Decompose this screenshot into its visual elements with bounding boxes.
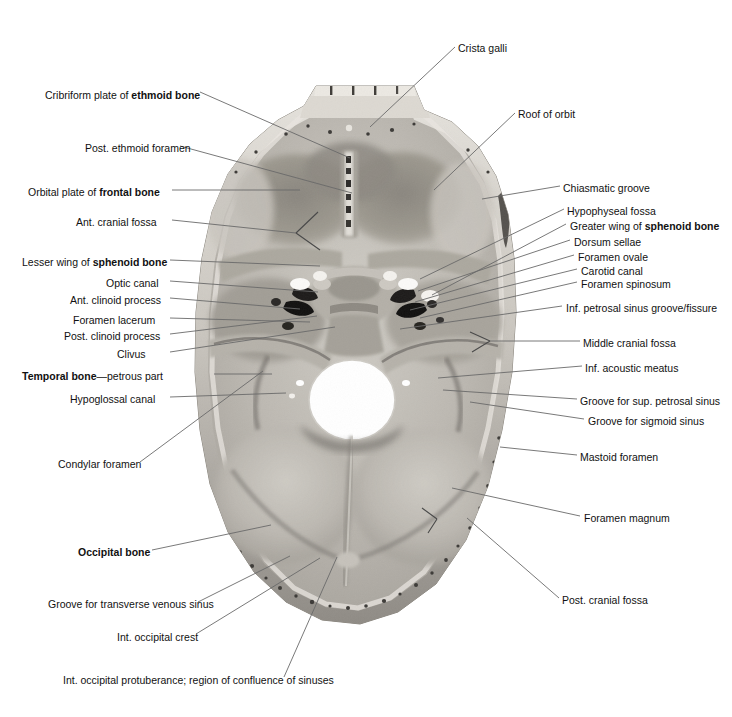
label-lesser-wing-sphenoid[interactable]: Lesser wing of sphenoid bone [22, 256, 167, 268]
label-cribriform-plate[interactable]: Cribriform plate of ethmoid bone [45, 89, 200, 101]
label-text: Lesser wing of [22, 256, 93, 268]
label-crista-galli[interactable]: Crista galli [458, 42, 507, 54]
label-greater-wing-sphenoid[interactable]: Greater wing of sphenoid bone [570, 220, 719, 232]
label-text: Hypophyseal fossa [567, 205, 656, 217]
label-middle-cranial-fossa[interactable]: Middle cranial fossa [583, 337, 676, 349]
label-text: Foramen spinosum [581, 278, 671, 290]
figure-canvas: Cribriform plate of ethmoid bonePost. et… [0, 0, 732, 717]
label-text-emphasis: sphenoid bone [93, 256, 168, 268]
label-text: Optic canal [106, 277, 159, 289]
label-text: Groove for sigmoid sinus [588, 415, 704, 427]
label-text: Condylar foramen [58, 458, 141, 470]
label-hypoglossal-canal[interactable]: Hypoglossal canal [70, 393, 155, 405]
label-groove-sigmoid-sinus[interactable]: Groove for sigmoid sinus [588, 415, 704, 427]
label-text: Mastoid foramen [580, 451, 658, 463]
label-foramen-ovale[interactable]: Foramen ovale [578, 251, 648, 263]
label-foramen-magnum[interactable]: Foramen magnum [584, 512, 670, 524]
label-text: Clivus [117, 348, 146, 360]
label-text: Crista galli [458, 42, 507, 54]
label-text: Int. occipital crest [117, 631, 198, 643]
label-ant-cranial-fossa[interactable]: Ant. cranial fossa [76, 216, 157, 228]
label-text: Dorsum sellae [574, 236, 641, 248]
label-text-emphasis: Occipital bone [78, 546, 150, 558]
label-post-cranial-fossa[interactable]: Post. cranial fossa [562, 594, 648, 606]
label-text: Groove for sup. petrosal sinus [580, 395, 720, 407]
label-text-emphasis: frontal bone [99, 186, 160, 198]
label-text: Foramen lacerum [73, 314, 155, 326]
label-text-emphasis: ethmoid bone [131, 89, 200, 101]
label-text-emphasis: Temporal bone [22, 370, 96, 382]
label-foramen-lacerum[interactable]: Foramen lacerum [73, 314, 155, 326]
label-temporal-bone-petrous[interactable]: Temporal bone—petrous part [22, 370, 163, 382]
label-text: Hypoglossal canal [70, 393, 155, 405]
label-mastoid-foramen[interactable]: Mastoid foramen [580, 451, 658, 463]
label-text: Chiasmatic groove [563, 182, 650, 194]
label-text-emphasis: sphenoid bone [645, 220, 720, 232]
label-text: Greater wing of [570, 220, 645, 232]
label-text: Inf. acoustic meatus [585, 362, 678, 374]
label-int-occipital-crest[interactable]: Int. occipital crest [117, 631, 198, 643]
label-carotid-canal[interactable]: Carotid canal [581, 265, 643, 277]
label-text: Foramen ovale [578, 251, 648, 263]
label-text: Post. clinoid process [64, 330, 160, 342]
label-condylar-foramen[interactable]: Condylar foramen [58, 458, 141, 470]
label-inf-acoustic-meatus[interactable]: Inf. acoustic meatus [585, 362, 678, 374]
label-foramen-spinosum[interactable]: Foramen spinosum [581, 278, 671, 290]
label-orbital-plate-frontal[interactable]: Orbital plate of frontal bone [28, 186, 160, 198]
label-occipital-bone[interactable]: Occipital bone [78, 546, 150, 558]
label-post-clinoid-process[interactable]: Post. clinoid process [64, 330, 160, 342]
label-int-occipital-protuberance[interactable]: Int. occipital protuberance; region of c… [63, 674, 334, 686]
label-text: Cribriform plate of [45, 89, 131, 101]
label-ant-clinoid-process[interactable]: Ant. clinoid process [70, 294, 161, 306]
label-clivus[interactable]: Clivus [117, 348, 146, 360]
label-text: Carotid canal [581, 265, 643, 277]
label-text: Ant. clinoid process [70, 294, 161, 306]
label-text: Int. occipital protuberance; region of c… [63, 674, 334, 686]
label-text: Foramen magnum [584, 512, 670, 524]
label-text: Inf. petrosal sinus groove/fissure [566, 302, 717, 314]
label-hypophyseal-fossa[interactable]: Hypophyseal fossa [567, 205, 656, 217]
label-text: Orbital plate of [28, 186, 99, 198]
label-text-suffix: —petrous part [96, 370, 163, 382]
label-inf-petrosal-sinus[interactable]: Inf. petrosal sinus groove/fissure [566, 302, 717, 314]
label-roof-of-orbit[interactable]: Roof of orbit [518, 108, 575, 120]
label-groove-transverse-sinus[interactable]: Groove for transverse venous sinus [48, 598, 214, 610]
label-text: Roof of orbit [518, 108, 575, 120]
label-text: Post. ethmoid foramen [85, 142, 191, 154]
label-chiasmatic-groove[interactable]: Chiasmatic groove [563, 182, 650, 194]
label-text: Middle cranial fossa [583, 337, 676, 349]
label-post-ethmoid-foramen[interactable]: Post. ethmoid foramen [85, 142, 191, 154]
label-optic-canal[interactable]: Optic canal [106, 277, 159, 289]
label-text: Ant. cranial fossa [76, 216, 157, 228]
label-text: Post. cranial fossa [562, 594, 648, 606]
label-dorsum-sellae[interactable]: Dorsum sellae [574, 236, 641, 248]
label-text: Groove for transverse venous sinus [48, 598, 214, 610]
label-groove-sup-petrosal[interactable]: Groove for sup. petrosal sinus [580, 395, 720, 407]
